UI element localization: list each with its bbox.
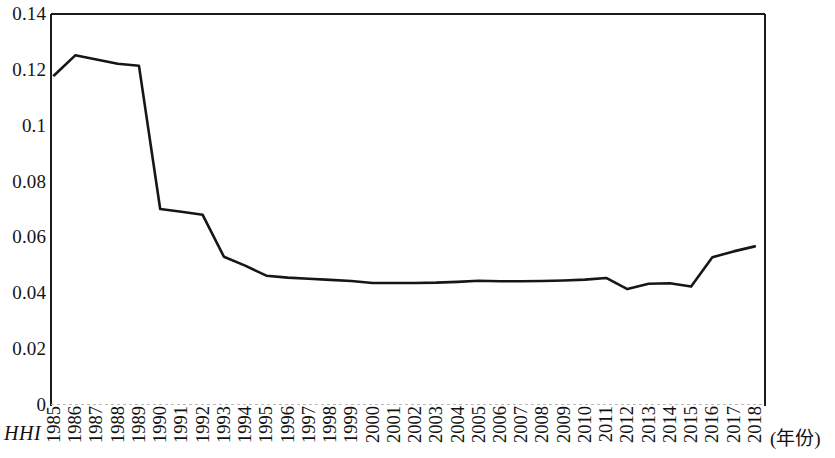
x-axis-tick-label: 2001 — [384, 406, 405, 458]
x-axis-tick-label: 2014 — [660, 406, 681, 458]
x-axis-tick-label: 2015 — [681, 406, 702, 458]
x-axis-tick-label: 2009 — [554, 406, 575, 458]
x-axis-tick-label: 1994 — [235, 406, 256, 458]
x-axis-tick-label: 1993 — [214, 406, 235, 458]
y-axis-tick-label: 0.06 — [2, 227, 46, 246]
y-axis-tick-label: 0.1 — [2, 116, 46, 135]
x-axis-tick-labels: 1985198619871988198919901991199219931994… — [0, 406, 835, 458]
x-axis-tick-label: 2005 — [469, 406, 490, 458]
x-axis-tick-label: 2011 — [596, 406, 617, 458]
x-axis-tick-label: 1985 — [44, 406, 65, 458]
x-axis-tick-label: 1986 — [65, 406, 86, 458]
x-axis-tick-label: 1990 — [150, 406, 171, 458]
x-axis-tick-label: 2010 — [575, 406, 596, 458]
x-axis-tick-label: 2017 — [724, 406, 745, 458]
x-axis-tick-label: 2008 — [532, 406, 553, 458]
x-axis-tick-label: 2016 — [702, 406, 723, 458]
x-axis-tick-label: 2002 — [405, 406, 426, 458]
x-axis-tick-label: 2003 — [426, 406, 447, 458]
x-axis-tick-label: 1996 — [278, 406, 299, 458]
y-axis-tick-label: 0.14 — [2, 4, 46, 23]
x-axis-tick-label: 1997 — [299, 406, 320, 458]
x-axis-tick-label: 1989 — [129, 406, 150, 458]
x-axis-tick-label: 1991 — [171, 406, 192, 458]
x-axis-tick-label: 1995 — [256, 406, 277, 458]
y-axis-title: HHI — [4, 422, 41, 445]
x-axis-tick-label: 2018 — [745, 406, 766, 458]
x-axis-tick-label: 1988 — [108, 406, 129, 458]
data-series-line — [0, 0, 835, 458]
x-axis-tick-label: 2012 — [617, 406, 638, 458]
y-axis-tick-label: 0.04 — [2, 283, 46, 302]
x-axis-title: (年份) — [770, 423, 821, 450]
x-axis-tick-label: 2013 — [639, 406, 660, 458]
x-axis-tick-label: 2006 — [490, 406, 511, 458]
y-axis-tick-label: 0.02 — [2, 339, 46, 358]
x-axis-tick-label: 2000 — [363, 406, 384, 458]
x-axis-tick-label: 2007 — [511, 406, 532, 458]
x-axis-tick-label: 1999 — [341, 406, 362, 458]
y-axis-tick-label: 0.08 — [2, 172, 46, 191]
x-axis-line — [51, 404, 765, 405]
y-axis-line — [50, 14, 52, 406]
x-axis-tick-label: 1998 — [320, 406, 341, 458]
x-axis-tick-label: 1987 — [86, 406, 107, 458]
plot-border-right — [764, 14, 766, 406]
chart-figure: 0.140.120.10.080.060.040.020 19851986198… — [0, 0, 835, 458]
y-axis-tick-labels: 0.140.120.10.080.060.040.020 — [0, 0, 46, 458]
x-axis-tick-label: 1992 — [193, 406, 214, 458]
x-axis-tick-label: 2004 — [448, 406, 469, 458]
plot-border-top — [51, 13, 765, 15]
y-axis-tick-label: 0.12 — [2, 60, 46, 79]
